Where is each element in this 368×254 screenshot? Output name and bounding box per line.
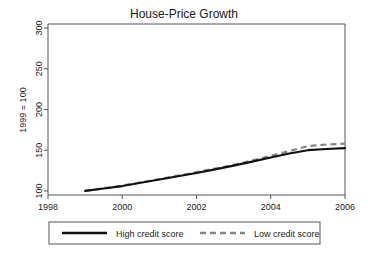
y-tick-label: 250 (34, 61, 44, 76)
chart-title: House-Price Growth (130, 7, 238, 21)
legend-label-high-credit-score: High credit score (116, 229, 184, 239)
chart-figure: House-Price Growth 1999 = 100 1001502002… (0, 0, 368, 254)
y-tick-label: 200 (34, 102, 44, 117)
y-tick-label: 150 (34, 143, 44, 158)
chart-background (0, 0, 368, 254)
x-tick-label: 2004 (261, 202, 281, 212)
y-tick-label: 300 (34, 21, 44, 36)
y-axis-title: 1999 = 100 (18, 87, 28, 132)
legend-label-low-credit-score: Low credit score (254, 229, 320, 239)
x-tick-label: 2000 (112, 202, 132, 212)
house-price-growth-chart: House-Price Growth 1999 = 100 1001502002… (0, 0, 368, 254)
x-tick-label: 2002 (186, 202, 206, 212)
x-tick-label: 1998 (38, 202, 58, 212)
x-tick-label: 2006 (335, 202, 355, 212)
y-tick-label: 100 (34, 183, 44, 198)
